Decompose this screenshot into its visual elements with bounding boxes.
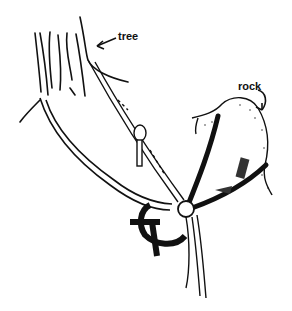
rock-webbing [188, 116, 266, 208]
anchor-drawing [0, 0, 292, 311]
tree-arrow [97, 38, 116, 46]
dark-sling [130, 205, 185, 256]
rock-label: rock [238, 80, 261, 92]
illustration: tree rock [0, 0, 292, 311]
tree-label: tree [118, 30, 138, 42]
tree-trunk [20, 17, 128, 122]
rock-outline [192, 98, 272, 195]
arrows [97, 38, 265, 110]
master-point-ring [178, 201, 194, 217]
tail-ropes [186, 215, 206, 298]
knot-tree [134, 125, 146, 166]
